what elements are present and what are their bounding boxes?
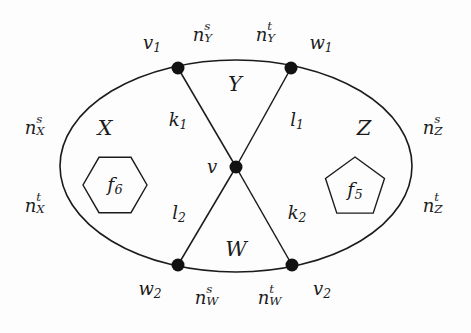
arc-label-nx-s: nsX bbox=[25, 119, 48, 138]
edge-label-l1: l1 bbox=[290, 111, 304, 132]
vertex-label-w2: w2 bbox=[138, 280, 161, 301]
vertex-label-v1: v1 bbox=[143, 34, 161, 55]
region-label-x: X bbox=[98, 118, 113, 139]
arc-label-ny-t: ntY bbox=[256, 26, 279, 45]
vertex-label-w1: w1 bbox=[309, 34, 332, 55]
figure-canvas: v1 w1 w2 v2 v k1 l1 l2 k2 X Y Z W nsY nt… bbox=[0, 0, 471, 333]
edge-l1 bbox=[236, 68, 291, 167]
face-label-f5: f5 bbox=[347, 180, 362, 203]
region-label-w: W bbox=[225, 239, 247, 260]
vertex-w2 bbox=[172, 259, 185, 272]
edge-label-l2: l2 bbox=[172, 204, 186, 225]
vertex-v1 bbox=[172, 62, 185, 75]
vertex-label-v: v bbox=[207, 158, 217, 176]
arc-label-nw-s: nsW bbox=[195, 289, 218, 308]
region-label-y: Y bbox=[228, 74, 242, 95]
face-label-f6: f6 bbox=[107, 175, 122, 198]
arc-label-nw-t: ntW bbox=[258, 289, 281, 308]
arc-label-nz-s: nsZ bbox=[423, 119, 446, 138]
diagram-svg bbox=[0, 0, 471, 333]
region-label-z: Z bbox=[357, 118, 372, 139]
edge-label-k1: k1 bbox=[169, 111, 188, 132]
arc-label-ny-s: nsY bbox=[193, 26, 216, 45]
vertex-v bbox=[230, 161, 243, 174]
vertex-w1 bbox=[285, 62, 298, 75]
vertex-label-v2: v2 bbox=[313, 280, 331, 301]
arc-label-nx-t: ntX bbox=[25, 197, 48, 216]
arc-label-nz-t: ntZ bbox=[423, 197, 446, 216]
vertex-v2 bbox=[286, 259, 299, 272]
edge-label-k2: k2 bbox=[288, 204, 307, 225]
